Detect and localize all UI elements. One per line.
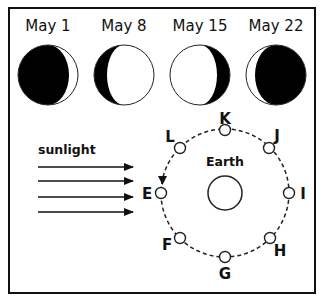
orbit-position-e: E <box>142 185 167 203</box>
orbit-position-h: H <box>265 233 287 261</box>
moon-phase-may-8-icon <box>94 45 154 105</box>
date-label-may-8: May 8 <box>101 17 146 35</box>
date-label-may-1: May 1 <box>25 17 70 35</box>
earth-label: Earth <box>206 154 244 169</box>
position-label-g: G <box>219 265 231 283</box>
position-label-f: F <box>162 236 172 254</box>
moon-phases-diagram: May 1 May 8 May 15 May 22 sunlight <box>0 0 321 304</box>
sunlight-label: sunlight <box>38 142 96 157</box>
orbit-position-j: J <box>264 127 280 154</box>
moon-phase-may-22-icon <box>246 45 306 105</box>
moon-phase-may-15-icon <box>170 45 230 105</box>
moon-phase-may-1-icon <box>18 45 78 105</box>
orbit-position-i: I <box>284 185 306 203</box>
orbit-position-g: G <box>219 252 231 284</box>
date-label-may-15: May 15 <box>173 17 228 35</box>
earth-icon <box>208 176 242 210</box>
position-label-k: K <box>219 110 232 128</box>
position-label-e: E <box>142 185 152 203</box>
sunlight-arrows-icon <box>38 167 133 212</box>
orbit-position-l: L <box>165 128 185 154</box>
orbit-position-f: F <box>162 233 186 255</box>
date-label-may-22: May 22 <box>249 17 304 35</box>
position-label-h: H <box>274 242 287 260</box>
orbit-position-k: K <box>219 110 232 136</box>
position-label-l: L <box>165 128 175 146</box>
position-label-i: I <box>300 185 306 203</box>
position-label-j: J <box>273 127 280 145</box>
orbit-direction-arrow-icon <box>158 176 167 185</box>
